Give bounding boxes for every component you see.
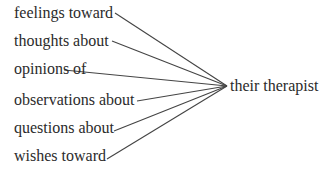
connector-line <box>64 70 227 86</box>
target-label: their therapist <box>230 77 318 95</box>
source-label: thoughts about <box>14 32 109 50</box>
source-label: questions about <box>14 119 114 137</box>
connector-line <box>137 86 227 101</box>
source-label: observations about <box>14 91 134 109</box>
source-label: wishes toward <box>14 147 106 165</box>
source-label: opinions of <box>14 60 86 78</box>
connector-line <box>112 41 227 86</box>
source-label: feelings toward <box>14 4 113 22</box>
connector-line <box>115 13 227 86</box>
